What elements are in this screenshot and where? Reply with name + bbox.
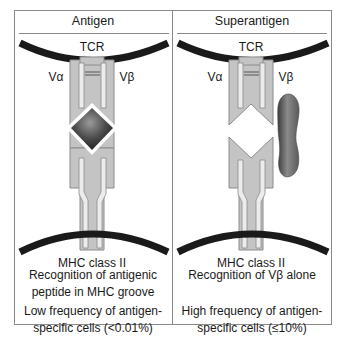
recognition-caption-right: Recognition of Vβ alone: [173, 267, 331, 284]
antigen-panel-graphics: [20, 43, 168, 252]
v-beta-label-left: Vβ: [116, 70, 138, 84]
tcr-label-right: TCR: [231, 40, 271, 54]
recognition-caption-left: Recognition of antigenic peptide in MHC …: [14, 267, 172, 301]
v-alpha-label-left: Vα: [45, 70, 67, 84]
v-beta-label-right: Vβ: [275, 70, 297, 84]
superantigen-panel-graphics: [178, 43, 328, 252]
frequency-caption-left: Low frequency of antigen- specific cells…: [14, 303, 172, 337]
superantigen-blob: [278, 94, 299, 177]
frequency-caption-right: High frequency of antigen- specific cell…: [173, 303, 331, 337]
tcr-label-left: TCR: [72, 40, 112, 54]
v-alpha-label-right: Vα: [204, 70, 226, 84]
